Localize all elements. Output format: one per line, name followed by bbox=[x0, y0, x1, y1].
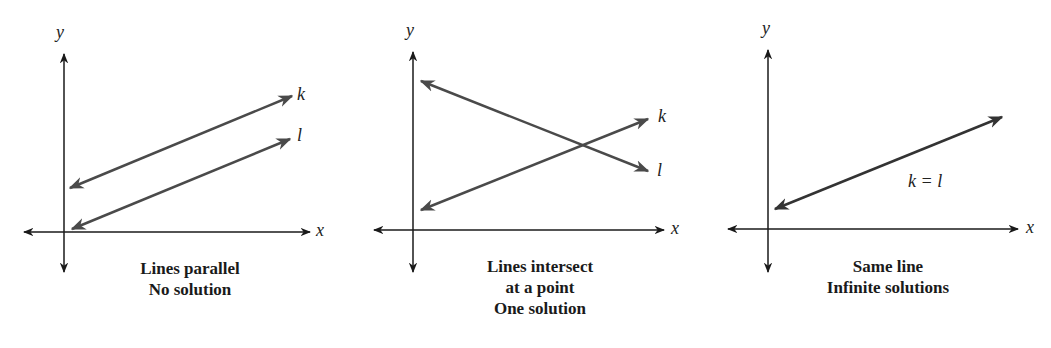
panel-intersecting-lines: y x k l Lines intersect at a point One s… bbox=[350, 0, 700, 348]
x-axis-label: x bbox=[1026, 217, 1034, 238]
x-axis-label: x bbox=[671, 218, 679, 239]
line-k-label: k bbox=[297, 84, 305, 105]
caption-parallel: Lines parallel No solution bbox=[100, 258, 280, 300]
line-l bbox=[72, 139, 290, 229]
caption-same-line: Same line Infinite solutions bbox=[798, 256, 978, 298]
panel-same-line: y x k = l Same line Infinite solutions bbox=[700, 0, 1051, 348]
line-k-label: k bbox=[658, 106, 666, 127]
y-axis-label: y bbox=[406, 20, 414, 41]
y-axis-label: y bbox=[56, 22, 64, 43]
line-l bbox=[421, 81, 648, 171]
line-k-equals-l-label: k = l bbox=[908, 171, 942, 192]
x-axis-label: x bbox=[316, 220, 324, 241]
line-l-label: l bbox=[297, 125, 302, 146]
line-k-equals-l bbox=[775, 117, 1002, 209]
line-l-label: l bbox=[657, 160, 662, 181]
line-k bbox=[421, 119, 648, 210]
y-axis-label: y bbox=[762, 18, 770, 39]
caption-intersecting: Lines intersect at a point One solution bbox=[440, 256, 640, 319]
panel-parallel-lines: y x k l Lines parallel No solution bbox=[0, 0, 350, 348]
line-k bbox=[70, 96, 292, 188]
